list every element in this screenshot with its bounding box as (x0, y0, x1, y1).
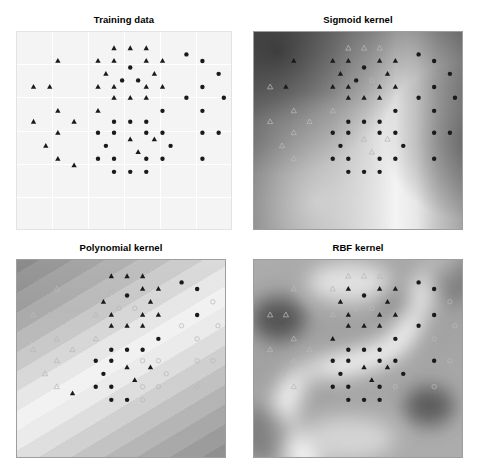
data-point (331, 157, 335, 161)
data-point (216, 131, 220, 135)
data-point (432, 157, 436, 161)
data-point (362, 348, 366, 352)
data-point (416, 96, 420, 100)
data-point (401, 144, 405, 148)
data-point (101, 372, 105, 376)
data-point (112, 120, 116, 124)
data-point (453, 96, 457, 100)
data-point (377, 359, 381, 363)
data-point (432, 287, 436, 291)
data-point (195, 313, 199, 317)
data-point (128, 170, 132, 174)
data-point (393, 337, 397, 341)
data-point (346, 359, 350, 363)
data-point (144, 120, 148, 124)
data-point (448, 131, 452, 135)
data-point (144, 157, 148, 161)
data-point (362, 170, 366, 174)
data-point (156, 337, 160, 341)
data-point (416, 324, 420, 328)
data-point (128, 65, 132, 69)
data-point (112, 131, 116, 135)
data-point (432, 313, 436, 317)
data-point (112, 170, 116, 174)
data-point (377, 385, 381, 389)
data-point (160, 131, 164, 135)
panel-sigmoid-kernel: Sigmoid kernel (253, 14, 463, 230)
data-point (416, 280, 420, 284)
data-point (377, 157, 381, 161)
data-point (160, 157, 164, 161)
panel-title-sigmoid-kernel: Sigmoid kernel (253, 14, 463, 25)
plot-area-rbf-kernel (253, 259, 463, 458)
data-point (109, 398, 113, 402)
panel-polynomial-kernel: Polynomial kernel (16, 242, 226, 458)
data-point (112, 157, 116, 161)
data-point (144, 131, 148, 135)
data-point (200, 157, 204, 161)
data-point (125, 398, 129, 402)
panel-training-data: Training data (16, 14, 232, 230)
data-point (362, 398, 366, 402)
data-point (96, 131, 100, 135)
plot-area-sigmoid-kernel (253, 31, 463, 230)
data-point (94, 385, 98, 389)
data-point (136, 78, 140, 82)
data-point (216, 72, 220, 76)
data-point (393, 131, 397, 135)
svm-kernel-figure: Training dataSigmoid kernelPolynomial ke… (0, 0, 483, 475)
plot-area-polynomial-kernel (16, 259, 226, 458)
panel-title-rbf-kernel: RBF kernel (253, 242, 463, 253)
data-point (377, 120, 381, 124)
data-point (96, 157, 100, 161)
data-point (362, 65, 366, 69)
data-point (401, 372, 405, 376)
data-point (416, 52, 420, 56)
data-point (195, 287, 199, 291)
data-point (109, 385, 113, 389)
data-point (432, 131, 436, 135)
data-point (168, 144, 172, 148)
data-point (362, 120, 366, 124)
panel-title-training-data: Training data (16, 14, 232, 25)
data-point (432, 85, 436, 89)
data-point (94, 359, 98, 363)
data-point (346, 348, 350, 352)
data-point (331, 385, 335, 389)
data-point (331, 131, 335, 135)
data-point (109, 348, 113, 352)
data-point (346, 398, 350, 402)
data-point (362, 293, 366, 297)
data-point (222, 96, 226, 100)
plot-area-training-data (16, 31, 232, 230)
data-point (346, 157, 350, 161)
data-point (448, 72, 452, 76)
data-point (377, 348, 381, 352)
panel-title-polynomial-kernel: Polynomial kernel (16, 242, 226, 253)
data-point (377, 398, 381, 402)
data-point (338, 372, 342, 376)
data-point (346, 131, 350, 135)
data-point (128, 120, 132, 124)
data-point (338, 144, 342, 148)
data-point (432, 59, 436, 63)
data-point (179, 280, 183, 284)
data-point (200, 85, 204, 89)
data-point (393, 157, 397, 161)
data-point (377, 131, 381, 135)
data-point (140, 348, 144, 352)
data-point (432, 359, 436, 363)
data-point (346, 120, 350, 124)
data-point (346, 385, 350, 389)
data-point (104, 144, 108, 148)
data-point (184, 96, 188, 100)
data-point (109, 359, 113, 363)
panel-rbf-kernel: RBF kernel (253, 242, 463, 458)
data-point (346, 170, 350, 174)
data-point (120, 78, 124, 82)
data-point (331, 359, 335, 363)
data-point (393, 359, 397, 363)
data-point (200, 109, 204, 113)
data-point (377, 170, 381, 174)
data-point (144, 170, 148, 174)
